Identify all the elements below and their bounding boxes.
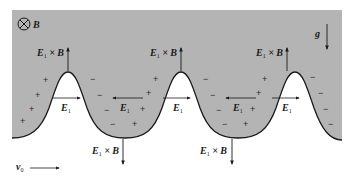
svg-text:+: + — [153, 74, 158, 84]
svg-text:+: + — [243, 119, 248, 129]
svg-text:E1 × B: E1 × B — [91, 145, 119, 157]
svg-text:E1 × B: E1 × B — [199, 145, 227, 157]
svg-text:−: − — [318, 88, 323, 98]
svg-text:E1 × B: E1 × B — [149, 47, 177, 59]
plasma-region — [12, 10, 342, 140]
trough-drift-2: E1 × B — [199, 139, 232, 164]
svg-text:E1: E1 — [60, 102, 71, 114]
svg-text:E1: E1 — [172, 102, 183, 114]
svg-text:−: − — [328, 119, 333, 129]
svg-text:E1 × B: E1 × B — [255, 47, 283, 59]
svg-text:+: + — [132, 119, 137, 129]
svg-text:+: + — [29, 104, 34, 114]
e-field-crest-1: E1 — [53, 98, 80, 114]
svg-text:−: − — [90, 74, 95, 84]
svg-text:−: − — [203, 74, 208, 84]
rayleigh-taylor-diagram: B g E1 × B E1 × B E1 × B E1 × B E1 × B E… — [0, 0, 350, 182]
svg-text:+: + — [250, 104, 255, 114]
svg-text:−: − — [110, 119, 115, 129]
gravity-label: g — [314, 28, 320, 39]
svg-text:+: + — [146, 88, 151, 98]
svg-text:−: − — [310, 72, 315, 82]
svg-text:+: + — [262, 74, 267, 84]
svg-text:−: − — [222, 119, 227, 129]
svg-text:−: − — [216, 105, 221, 115]
svg-text:−: − — [323, 104, 328, 114]
b-field-label: B — [32, 19, 40, 30]
svg-text:+: + — [43, 75, 48, 85]
velocity-label: v0 — [16, 161, 23, 173]
svg-text:+: + — [35, 90, 40, 100]
svg-text:−: − — [104, 105, 109, 115]
svg-text:E1: E1 — [281, 102, 292, 114]
svg-text:+: + — [140, 104, 145, 114]
svg-text:+: + — [256, 88, 261, 98]
svg-text:−: − — [97, 90, 102, 100]
svg-text:E1 × B: E1 × B — [36, 47, 64, 59]
svg-text:−: − — [210, 90, 215, 100]
e-field-crest-2: E1 — [163, 98, 190, 114]
svg-text:+: + — [20, 116, 25, 126]
trough-drift-1: E1 × B — [91, 139, 123, 164]
